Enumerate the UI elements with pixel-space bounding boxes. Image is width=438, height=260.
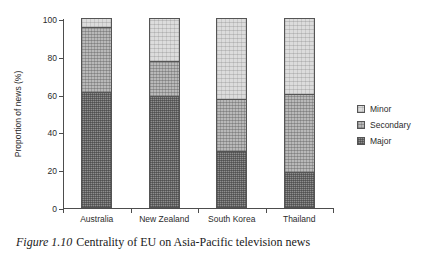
figure-caption: Figure 1.10Centrality of EU on Asia-Paci… [16,236,310,249]
legend-item[interactable]: Minor [357,101,437,117]
x-axis-category-label: Australia [63,215,131,224]
x-tick-mark [63,209,64,213]
legend-label: Major [370,137,391,146]
y-tick-mark [59,171,63,172]
bar-segment[interactable] [149,61,180,96]
y-axis-line [63,19,64,210]
caption-figure-number: Figure 1.10 [16,235,72,249]
y-tick-label: 60 [48,91,57,100]
legend: MinorSecondaryMajor [357,101,437,149]
bar-segment[interactable] [81,92,112,208]
caption-text: Centrality of EU on Asia-Pacific televis… [76,235,310,249]
bar-group [149,19,180,208]
y-tick-mark [59,133,63,134]
x-tick-mark [333,209,334,213]
legend-swatch-icon [357,121,365,129]
x-axis-category-label: New Zealand [131,215,199,224]
bar-segment[interactable] [149,18,180,62]
bar-segment[interactable] [284,18,315,95]
bar-segment[interactable] [216,18,247,100]
y-tick-label: 20 [48,167,57,176]
legend-label: Secondary [370,121,411,130]
bar-segment[interactable] [284,94,315,173]
y-tick-label: 100 [43,16,57,25]
figure-container: Proportion of news (%) 020406080100 Aust… [0,0,438,260]
y-tick-mark [59,96,63,97]
plot-area: 020406080100 [63,20,333,209]
y-axis-title: Proportion of news (%) [14,71,23,157]
legend-swatch-icon [357,137,365,145]
legend-item[interactable]: Secondary [357,117,437,133]
x-tick-mark [198,209,199,213]
y-tick-mark [59,20,63,21]
x-axis-category-label: South Korea [198,215,266,224]
bar-group [284,19,315,208]
bar-segment[interactable] [216,99,247,152]
x-tick-mark [266,209,267,213]
y-tick-label: 40 [48,129,57,138]
legend-item[interactable]: Major [357,133,437,149]
bar-segment[interactable] [81,27,112,92]
x-tick-mark [131,209,132,213]
legend-swatch-icon [357,105,365,113]
bar-segment[interactable] [149,96,180,209]
bar-segment[interactable] [284,172,315,208]
y-tick-mark [59,58,63,59]
legend-label: Minor [370,105,391,114]
bar-segment[interactable] [216,151,247,208]
y-tick-label: 0 [52,205,57,214]
x-axis-category-label: Thailand [266,215,334,224]
bar-segment[interactable] [81,18,112,28]
bar-group [81,19,112,208]
y-tick-label: 80 [48,54,57,63]
bar-group [216,19,247,208]
